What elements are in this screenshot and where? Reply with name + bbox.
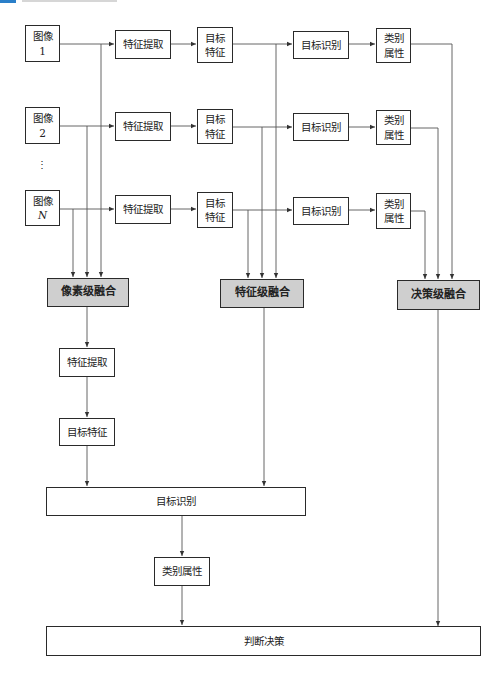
feature-level-fusion: 特征级融合 <box>220 279 304 308</box>
input-image-n-label: 图像 <box>33 195 53 207</box>
input-image-n-index: N <box>38 209 47 221</box>
input-image-2-label: 图像 <box>33 112 53 124</box>
row2-target-feature: 目标 特征 <box>197 109 233 144</box>
pixel-level-fusion: 像素级融合 <box>47 278 129 307</box>
row1-feature-extraction: 特征提取 <box>115 30 171 59</box>
row2-feature-extraction: 特征提取 <box>115 112 171 141</box>
rown-class-attribute: 类别 属性 <box>376 193 411 229</box>
rown-target-feature: 目标 特征 <box>197 192 233 228</box>
pipeline-target-feature: 目标特征 <box>59 418 115 446</box>
input-image-1-index: 1 <box>39 45 46 57</box>
row1-class-attribute: 类别 属性 <box>376 28 411 63</box>
row1-target-feature: 目标 特征 <box>197 27 233 63</box>
row1-target-recognition: 目标识别 <box>293 31 349 59</box>
input-image-2-index: 2 <box>39 127 46 139</box>
input-image-n: 图像N <box>25 190 60 226</box>
final-decision: 判断决策 <box>46 626 481 656</box>
connector-lines <box>0 0 499 673</box>
ellipsis-vertical: ⋮ <box>37 163 47 167</box>
input-image-1: 图像1 <box>25 25 60 62</box>
row2-target-recognition: 目标识别 <box>293 113 349 141</box>
input-image-2: 图像2 <box>25 107 60 144</box>
rown-target-recognition: 目标识别 <box>293 197 349 225</box>
decision-level-fusion: 决策级融合 <box>397 280 480 310</box>
pipeline-class-attribute: 类别属性 <box>154 557 210 586</box>
pipeline-feature-extraction: 特征提取 <box>59 348 115 377</box>
rown-feature-extraction: 特征提取 <box>115 195 171 224</box>
input-image-1-label: 图像 <box>33 30 53 42</box>
row2-class-attribute: 类别 属性 <box>376 110 411 145</box>
pipeline-target-recognition: 目标识别 <box>46 487 306 516</box>
